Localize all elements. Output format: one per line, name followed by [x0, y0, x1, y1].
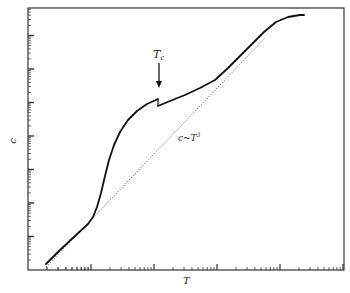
- chart-svg: Tc c~T3 T c: [0, 0, 350, 293]
- tc-arrow-head-icon: [156, 81, 162, 88]
- y-axis-label: c: [7, 138, 18, 144]
- tc-label: Tc: [153, 48, 164, 62]
- specific-heat-curve-above-tc: [158, 15, 304, 106]
- specific-heat-curve-below-tc: [46, 99, 158, 264]
- x-axis-label: T: [183, 275, 191, 286]
- y-axis-ticks: [28, 9, 34, 259]
- specific-heat-chart: Tc c~T3 T c: [0, 0, 350, 293]
- cubic-law-label: c~T3: [178, 131, 201, 143]
- x-axis-ticks: [47, 264, 343, 270]
